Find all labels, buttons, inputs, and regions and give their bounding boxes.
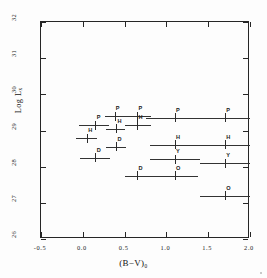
x-tick <box>166 22 167 27</box>
data-point-marker <box>95 121 96 130</box>
error-bar <box>149 176 198 177</box>
data-point-label: P <box>226 107 230 113</box>
data-point-label: Y <box>176 148 180 154</box>
x-tick-label: 1.0 <box>145 244 185 251</box>
data-point-label: H <box>226 134 230 140</box>
y-tick <box>243 203 248 204</box>
data-point-label: H <box>138 114 142 120</box>
data-point-label: P <box>176 107 180 113</box>
data-point-label: P <box>97 114 101 120</box>
x-tick <box>83 232 84 237</box>
data-point-marker <box>95 153 96 162</box>
y-tick <box>41 58 46 59</box>
x-tick <box>41 22 42 27</box>
y-tick <box>41 203 46 204</box>
data-point-label: Y <box>226 152 230 158</box>
data-point-marker <box>116 142 117 151</box>
y-tick <box>243 167 248 168</box>
data-point-marker <box>225 191 226 200</box>
x-tick-label: 0.5 <box>104 244 144 251</box>
data-point-label: H <box>88 127 92 133</box>
y-tick-label: 29 <box>0 123 26 130</box>
y-tick <box>243 239 248 240</box>
x-tick-label: 1.5 <box>187 244 227 251</box>
data-point-label: D <box>97 147 101 153</box>
x-tick <box>83 22 84 27</box>
data-point-label: H <box>118 118 122 124</box>
error-bar <box>125 125 151 126</box>
x-tick <box>250 22 251 27</box>
x-tick-label: -0.5 <box>20 244 60 251</box>
data-point-marker <box>175 155 176 164</box>
x-tick-label: 0.0 <box>62 244 102 251</box>
y-tick <box>243 131 248 132</box>
x-axis-title-text: (B−V)₀ <box>119 258 148 268</box>
y-tick-label: 27 <box>0 195 26 202</box>
x-tick <box>250 232 251 237</box>
y-tick <box>41 167 46 168</box>
x-tick <box>125 232 126 237</box>
y-tick <box>41 131 46 132</box>
data-point-marker <box>175 171 176 180</box>
data-point-label: D <box>138 165 142 171</box>
y-tick <box>243 58 248 59</box>
y-axis-title: Log Lₓ <box>6 96 20 105</box>
data-point-marker <box>116 124 117 133</box>
x-tick <box>125 22 126 27</box>
figure-canvas: Log Lₓ PPPPPHHHHHDDDYYOO 26272829303132 … <box>0 0 267 278</box>
data-point-marker <box>115 112 116 121</box>
page-speck <box>260 272 262 274</box>
data-point-marker <box>225 140 226 149</box>
y-tick <box>243 94 248 95</box>
data-point-marker <box>87 134 88 143</box>
data-point-label: O <box>176 165 180 171</box>
y-tick-label: 30 <box>0 86 26 93</box>
x-tick <box>208 22 209 27</box>
data-point-label: O <box>226 185 230 191</box>
data-point-marker <box>225 113 226 122</box>
y-tick-label: 31 <box>0 50 26 57</box>
data-point-label: P <box>116 105 120 111</box>
x-tick <box>166 232 167 237</box>
y-tick-label: 26 <box>0 231 26 238</box>
y-tick-label: 32 <box>0 14 26 21</box>
x-tick <box>208 232 209 237</box>
data-point-marker <box>175 113 176 122</box>
data-point-label: D <box>118 136 122 142</box>
plot-frame: PPPPPHHHHHDDDYYOO <box>40 21 249 238</box>
error-bar <box>79 125 109 126</box>
data-point-marker <box>137 121 138 130</box>
data-point-label: H <box>176 134 180 140</box>
x-tick <box>41 232 42 237</box>
y-tick-label: 28 <box>0 159 26 166</box>
y-tick <box>41 239 46 240</box>
data-point-marker <box>225 159 226 168</box>
x-axis-title: (B−V)₀ <box>0 258 267 268</box>
data-point-label: P <box>138 105 142 111</box>
data-point-marker <box>137 171 138 180</box>
y-tick <box>243 22 248 23</box>
y-tick <box>41 94 46 95</box>
x-tick-label: 2.0 <box>229 244 267 251</box>
